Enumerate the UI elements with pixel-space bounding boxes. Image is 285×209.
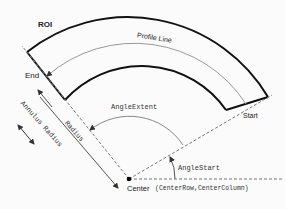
angle-start-arc <box>170 157 175 179</box>
profile-line <box>47 43 246 104</box>
start-label: Start <box>243 112 258 119</box>
roi-annulus-diagram: ROI Profile Line End Start Annulus Radiu… <box>0 0 285 209</box>
roi-outer-arc <box>27 17 268 97</box>
angle-extent-arc <box>90 116 183 145</box>
angle-start-label: AngleStart <box>178 164 220 172</box>
roi-start-edge <box>226 97 268 110</box>
end-label: End <box>25 71 39 80</box>
center-params-label: (CenterRow,CenterColumn) <box>155 185 249 192</box>
center-point <box>127 177 132 182</box>
center-label: Center <box>127 184 150 193</box>
angle-extent-label: AngleExtent <box>111 103 157 111</box>
roi-label: ROI <box>38 20 52 29</box>
